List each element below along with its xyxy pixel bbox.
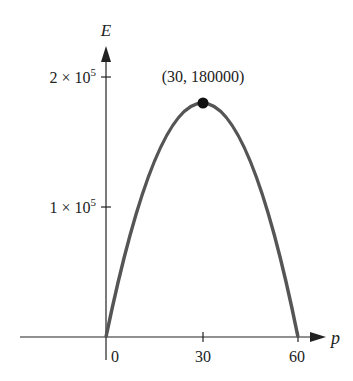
x-axis-arrow-icon [310,332,326,342]
peak-point-marker [198,98,209,109]
y-tick-label-2e5: 2 × 105 [49,66,96,86]
y-tick-label-1e5: 1 × 105 [49,196,96,216]
x-axis-label: p [329,328,340,348]
y-axis-arrow-icon [101,46,111,62]
x-tick-label-30: 30 [195,348,211,365]
x-tick-label-0: 0 [111,348,119,365]
revenue-curve [106,103,298,337]
revenue-parabola-chart: E p 2 × 105 1 × 105 0 30 60 (30, 180000) [0,0,353,381]
peak-annotation: (30, 180000) [162,68,245,86]
x-tick-label-60: 60 [289,348,305,365]
y-axis-label: E [100,21,112,40]
